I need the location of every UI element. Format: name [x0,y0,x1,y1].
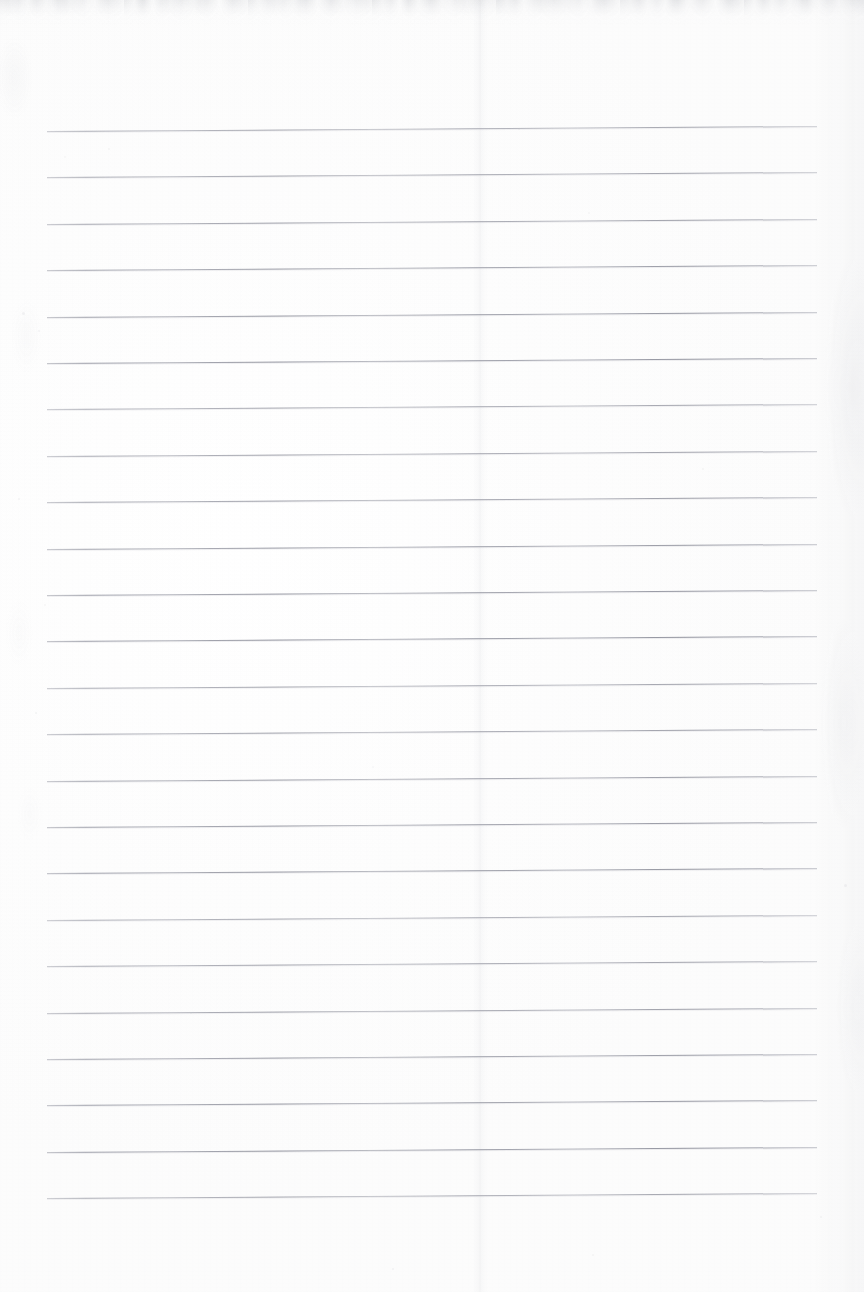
ruled-line [47,1100,817,1106]
ruled-line [47,822,817,828]
ruled-line [47,1008,817,1014]
ruled-line [47,172,817,178]
ruled-line [47,636,817,642]
ruled-line [47,358,817,364]
ruled-line [47,590,817,596]
ruled-line [47,868,817,874]
scan-speck [18,498,20,500]
ruled-line [47,1147,817,1153]
scan-speck [44,604,46,606]
scan-speck [392,1268,394,1270]
scan-speck [820,1216,822,1218]
scan-speck [844,884,847,887]
scan-speck [22,312,25,315]
scan-speck [592,1254,594,1256]
scan-speck [108,148,110,150]
ruled-line [47,1054,817,1060]
scan-speck [588,212,590,214]
scan-speck [64,156,66,158]
scanned-page [0,0,864,1292]
ruled-lines-group [0,0,864,1292]
ruled-line [47,729,817,735]
ruled-line [47,497,817,503]
scan-speck [518,128,520,130]
scan-speck [35,712,37,714]
scan-speck [190,1012,192,1014]
ruled-line [47,915,817,921]
ruled-line [47,126,817,132]
scan-speck [702,468,704,470]
ruled-line [47,265,817,271]
ruled-line [47,544,817,550]
ruled-line [47,776,817,782]
ruled-line [47,219,817,225]
ruled-line [47,451,817,457]
top-edge-scan-noise-secondary [0,0,864,16]
ruled-line [47,404,817,410]
ruled-line [47,961,817,967]
scan-speck [372,766,374,768]
scan-speck [38,330,40,332]
ruled-line [47,312,817,318]
ruled-line [47,1193,817,1199]
ruled-line [47,683,817,689]
